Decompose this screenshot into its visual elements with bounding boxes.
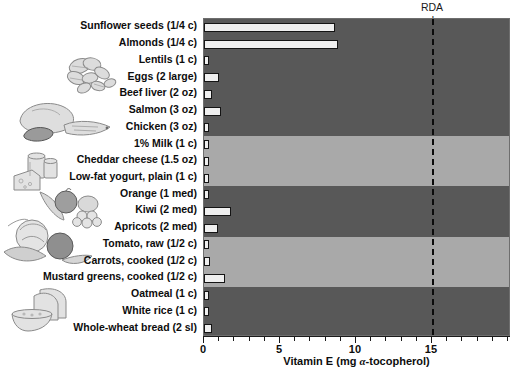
category-labels: Sunflower seeds (1/4 c)Almonds (1/4 c)Le… [0, 18, 200, 336]
x-tick-major [355, 336, 356, 343]
bar [204, 274, 225, 283]
category-label: Mustard greens, cooked (1/2 c) [43, 271, 197, 282]
x-tick-minor [370, 336, 371, 341]
category-label: Whole-wheat bread (2 sl) [73, 322, 197, 333]
bar [204, 140, 209, 149]
x-tick-minor [446, 336, 447, 341]
x-tick-major [431, 336, 432, 343]
bar [204, 40, 338, 49]
bar [204, 73, 219, 82]
category-label: Orange (1 med) [120, 188, 197, 199]
category-label: Cheddar cheese (1.5 oz) [77, 154, 197, 165]
bar [204, 307, 209, 316]
x-tick-minor [249, 336, 250, 341]
x-tick-minor [477, 336, 478, 341]
bar [204, 90, 212, 99]
category-label: Oatmeal (1 c) [131, 288, 197, 299]
x-tick-minor [218, 336, 219, 341]
bar [204, 257, 210, 266]
band-fruits [204, 186, 509, 236]
x-axis-title-main: Vitamin E (mg [283, 355, 359, 367]
x-tick-minor [325, 336, 326, 341]
x-tick-minor [309, 336, 310, 341]
x-tick-minor [294, 336, 295, 341]
category-label: Almonds (1/4 c) [119, 37, 197, 48]
category-label: Beef liver (2 oz) [119, 87, 197, 98]
x-tick-minor [492, 336, 493, 341]
x-axis-title: Vitamin E (mg α-tocopherol) [203, 355, 510, 367]
category-label: 1% Milk (1 c) [134, 138, 197, 149]
category-label: Apricots (2 med) [114, 221, 197, 232]
x-tick-minor [461, 336, 462, 341]
x-tick-minor [507, 336, 508, 341]
x-tick-minor [401, 336, 402, 341]
category-label: Tomato, raw (1/2 c) [103, 238, 197, 249]
band-nuts-seeds-legumes-protein [204, 19, 509, 136]
plot-area [203, 18, 510, 336]
x-tick-minor [264, 336, 265, 341]
bar [204, 123, 209, 132]
category-label: Sunflower seeds (1/4 c) [80, 20, 197, 31]
category-label: Lentils (1 c) [139, 54, 197, 65]
bar [204, 240, 209, 249]
x-tick-minor [233, 336, 234, 341]
bar [204, 190, 209, 199]
bar [204, 324, 212, 333]
band-grains [204, 287, 509, 336]
x-tick-label: 5 [264, 343, 294, 355]
x-tick-minor [340, 336, 341, 341]
category-label: Salmon (3 oz) [129, 104, 197, 115]
rda-reference-line [432, 19, 434, 335]
x-tick-label: 10 [340, 343, 370, 355]
x-tick-major [203, 336, 204, 343]
x-tick-major [279, 336, 280, 343]
category-label: White rice (1 c) [122, 305, 197, 316]
bar [204, 291, 209, 300]
bar [204, 157, 209, 166]
x-axis-title-tail: -tocopherol) [366, 355, 430, 367]
rda-label-line1: RDA [372, 1, 492, 14]
x-tick-minor [416, 336, 417, 341]
bar [204, 56, 209, 65]
category-label: Chicken (3 oz) [126, 121, 197, 132]
band-dairy [204, 136, 509, 186]
bar [204, 207, 231, 216]
x-tick-label: 0 [188, 343, 218, 355]
category-label: Carrots, cooked (1/2 c) [84, 255, 197, 266]
x-tick-minor [385, 336, 386, 341]
band-vegetables [204, 237, 509, 287]
category-label: Eggs (2 large) [128, 71, 197, 82]
category-label: Low-fat yogurt, plain (1 c) [69, 171, 197, 182]
bar [204, 23, 335, 32]
category-label: Kiwi (2 med) [135, 204, 197, 215]
bar [204, 107, 221, 116]
vitamin-e-food-sources-chart: RDA men and women [0, 0, 525, 369]
x-tick-label: 15 [416, 343, 446, 355]
bar [204, 174, 209, 183]
bar [204, 224, 218, 233]
